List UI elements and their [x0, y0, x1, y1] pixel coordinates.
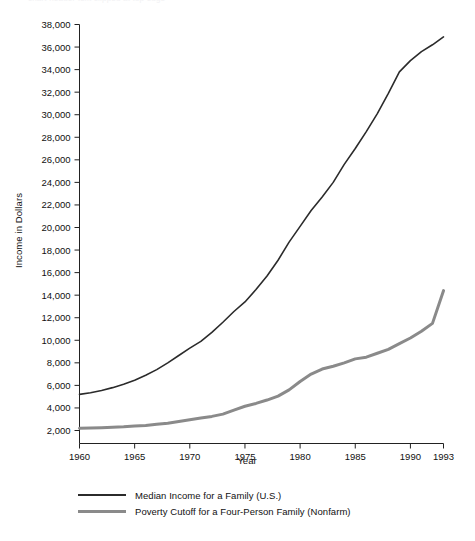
y-tick-label: 10,000 — [41, 335, 70, 346]
x-tick-label: 1993 — [433, 451, 454, 462]
y-tick-label: 20,000 — [41, 222, 70, 233]
y-tick-label: 26,000 — [41, 154, 70, 165]
series-line-poverty-cutoff — [80, 291, 444, 429]
y-tick-label: 34,000 — [41, 64, 70, 75]
y-tick-label: 36,000 — [41, 42, 70, 53]
legend-swatch-median-income — [78, 494, 126, 496]
series-line-median-income — [80, 37, 444, 395]
data-series — [80, 37, 444, 428]
y-tick-label: 38,000 — [41, 19, 70, 30]
x-tick-label: 1990 — [400, 451, 421, 462]
y-tick-label: 24,000 — [41, 177, 70, 188]
y-tick-label: 16,000 — [41, 267, 70, 278]
y-tick-label: 6,000 — [47, 380, 71, 391]
legend-label-median-income: Median Income for a Family (U.S.) — [135, 490, 281, 501]
y-tick-label: 22,000 — [41, 199, 70, 210]
x-tick-label: 1970 — [179, 451, 200, 462]
y-tick-label: 8,000 — [47, 357, 71, 368]
y-axis-ticks: 2,0004,0006,0008,00010,00012,00014,00016… — [41, 19, 79, 436]
legend-swatch-poverty-cutoff — [78, 510, 126, 513]
line-chart-svg: 2,0004,0006,0008,00010,00012,00014,00016… — [0, 0, 475, 470]
y-tick-label: 32,000 — [41, 87, 70, 98]
x-axis-title: Year — [237, 455, 256, 466]
y-tick-label: 12,000 — [41, 312, 70, 323]
x-tick-label: 1960 — [69, 451, 90, 462]
y-tick-label: 18,000 — [41, 245, 70, 256]
y-tick-label: 4,000 — [47, 402, 71, 413]
plot-area: 2,0004,0006,0008,00010,00012,00014,00016… — [0, 0, 475, 541]
y-tick-label: 30,000 — [41, 109, 70, 120]
x-tick-label: 1985 — [345, 451, 366, 462]
x-tick-label: 1965 — [124, 451, 145, 462]
legend-item: Poverty Cutoff for a Four-Person Family … — [78, 503, 468, 519]
chart-figure: chart header text clipped at top edge 2,… — [0, 0, 475, 541]
legend-label-poverty-cutoff: Poverty Cutoff for a Four-Person Family … — [135, 506, 351, 517]
x-axis-ticks: 19601965197019751980198519901993 — [69, 444, 454, 462]
chart-legend: Median Income for a Family (U.S.) Povert… — [78, 487, 468, 519]
legend-item: Median Income for a Family (U.S.) — [78, 487, 468, 503]
y-tick-label: 28,000 — [41, 132, 70, 143]
y-tick-label: 2,000 — [47, 425, 71, 436]
x-tick-label: 1980 — [290, 451, 311, 462]
y-tick-label: 14,000 — [41, 290, 70, 301]
